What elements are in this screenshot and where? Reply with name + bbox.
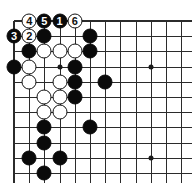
stone-black	[37, 29, 52, 44]
stone-move-number: 6	[68, 15, 81, 28]
grid-line-vertical	[13, 21, 15, 183]
stone-black	[37, 166, 52, 181]
stone-black	[22, 44, 37, 59]
grid-line-vertical	[120, 21, 121, 183]
stone-move-number: 5	[38, 15, 51, 28]
stone-white	[22, 59, 37, 74]
stone-move-number: 4	[23, 15, 36, 28]
numbered-stone-white-2: 2	[22, 29, 37, 44]
grid-line-vertical	[181, 21, 182, 183]
grid-line-vertical	[136, 21, 137, 183]
stone-black	[83, 29, 98, 44]
stone-black	[98, 74, 113, 89]
star-point	[148, 64, 153, 69]
stone-white	[52, 90, 67, 105]
grid-line-vertical	[166, 21, 167, 183]
stone-white	[52, 74, 67, 89]
go-board-diagram: 451632	[0, 0, 192, 183]
stone-black	[67, 59, 82, 74]
star-point	[57, 64, 62, 69]
goban-grid: 451632	[0, 0, 192, 183]
stone-white	[52, 44, 67, 59]
stone-white	[37, 90, 52, 105]
numbered-stone-black-3: 3	[7, 29, 22, 44]
stone-black	[67, 90, 82, 105]
stone-white	[67, 44, 82, 59]
stone-black	[7, 59, 22, 74]
stone-black	[83, 120, 98, 135]
stone-move-number: 3	[8, 30, 21, 43]
stone-black	[37, 135, 52, 150]
grid-line-vertical	[105, 21, 106, 183]
stone-white	[37, 105, 52, 120]
stone-black	[52, 150, 67, 165]
numbered-stone-white-4: 4	[22, 14, 37, 29]
stone-white	[22, 74, 37, 89]
numbered-stone-black-5: 5	[37, 14, 52, 29]
stone-black	[67, 74, 82, 89]
stone-move-number: 2	[23, 30, 36, 43]
stone-white	[52, 105, 67, 120]
numbered-stone-black-1: 1	[52, 14, 67, 29]
stone-black	[83, 44, 98, 59]
stone-white	[37, 44, 52, 59]
stone-black	[22, 150, 37, 165]
stone-black	[37, 120, 52, 135]
numbered-stone-white-6: 6	[67, 14, 82, 29]
star-point	[148, 155, 153, 160]
stone-move-number: 1	[53, 15, 66, 28]
